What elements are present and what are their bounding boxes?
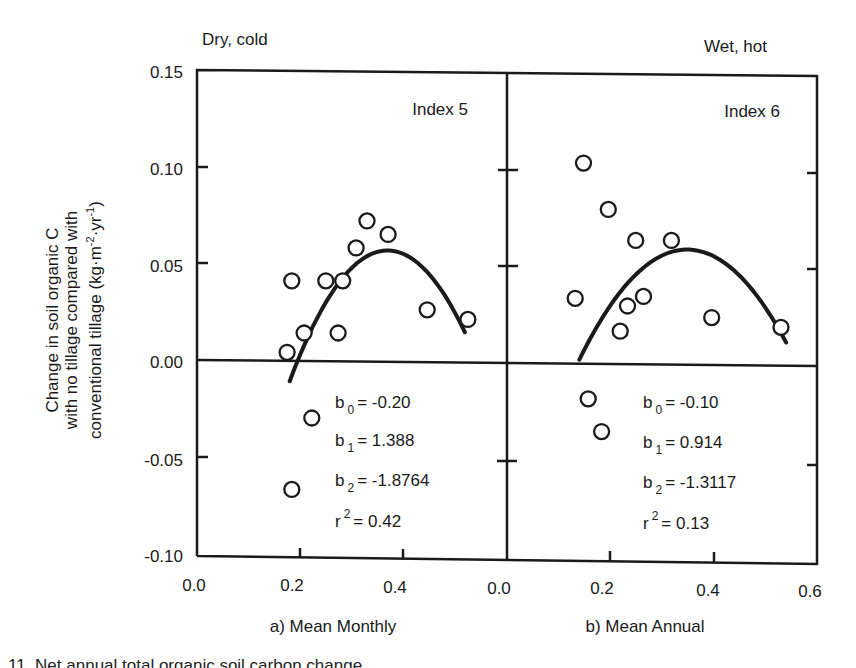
panel-a-stats: b0= -0.20 b1= 1.388 b2= -1.8764 r2= 0.42 bbox=[335, 393, 429, 531]
data-point-circle bbox=[576, 156, 591, 171]
x-tick-labels: 0.0 0.2 0.4 0.0 0.2 0.4 0.6 bbox=[182, 576, 822, 601]
x-tick-label: 0.2 bbox=[590, 579, 614, 598]
panel-a-subtitle: a) Mean Monthly bbox=[270, 617, 397, 636]
x-tick-label: 0.4 bbox=[383, 578, 407, 597]
data-point-circle bbox=[284, 482, 299, 497]
x-tick-label: 0.6 bbox=[798, 582, 822, 601]
y-axis-label-line3: conventional tillage (kg·m-2·yr-1) bbox=[81, 201, 105, 439]
data-point-circle bbox=[420, 302, 435, 317]
y-axis-label-line2: with no tillage compared with bbox=[62, 201, 81, 439]
stat-b2: b2= -1.3117 bbox=[643, 473, 736, 497]
corner-label-right: Wet, hot bbox=[704, 37, 767, 56]
panel-b-subtitle: b) Mean Annual bbox=[585, 617, 704, 636]
fit-curve bbox=[579, 250, 786, 360]
data-point-circle bbox=[297, 326, 312, 341]
data-point-circle bbox=[381, 227, 396, 242]
y-tick-label: -0.10 bbox=[144, 547, 183, 566]
x-tick-label: 0.2 bbox=[280, 576, 304, 595]
data-point-circle bbox=[280, 345, 295, 360]
data-point-circle bbox=[284, 273, 299, 288]
y-tick-label: 0.15 bbox=[150, 63, 183, 82]
panel-a-index-label: Index 5 bbox=[412, 100, 468, 119]
panel-b-stats: b0= -0.10 b1= 0.914 b2= -1.3117 r2= 0.13 bbox=[643, 393, 736, 533]
x-tick-label: 0.0 bbox=[182, 576, 206, 595]
data-point-circle bbox=[568, 291, 583, 306]
data-point-circle bbox=[331, 326, 346, 341]
data-point-circle bbox=[704, 310, 719, 325]
data-point-circle bbox=[620, 299, 635, 314]
data-point-circle bbox=[304, 411, 319, 426]
data-point-circle bbox=[664, 233, 679, 248]
y-tick-label: 0.10 bbox=[150, 160, 183, 179]
stat-r2: r2= 0.13 bbox=[643, 509, 709, 533]
stat-r2: r2= 0.42 bbox=[335, 507, 401, 531]
data-point-circle bbox=[349, 240, 364, 255]
data-point-circle bbox=[335, 273, 350, 288]
panel-b-index-label: Index 6 bbox=[724, 102, 780, 121]
data-point-circle bbox=[360, 213, 375, 228]
y-ticks-right bbox=[807, 173, 817, 465]
figure: Dry, cold Wet, hot 0.15 0.10 0.05 0.00 -… bbox=[0, 0, 856, 668]
y-tick-label: 0.00 bbox=[150, 353, 183, 372]
y-tick-label: -0.05 bbox=[144, 451, 183, 470]
data-point-circle bbox=[601, 202, 616, 217]
x-tick-label: 0.0 bbox=[487, 579, 511, 598]
data-point-circle bbox=[318, 273, 333, 288]
stat-b2: b2= -1.8764 bbox=[335, 471, 429, 495]
stat-b0: b0= -0.10 bbox=[643, 393, 719, 417]
data-point-circle bbox=[594, 424, 609, 439]
stat-b1: b1= 0.914 bbox=[643, 433, 722, 457]
data-point-circle bbox=[613, 324, 628, 339]
data-point-circle bbox=[636, 289, 651, 304]
figure-caption-fragment: 11. Net annual total organic soil carbon… bbox=[0, 656, 856, 668]
y-axis-label: Change in soil organic C with no tillage… bbox=[14, 110, 134, 530]
data-point-circle bbox=[774, 320, 789, 335]
y-ticks-left bbox=[197, 167, 208, 457]
y-tick-labels: 0.15 0.10 0.05 0.00 -0.05 -0.10 bbox=[144, 63, 183, 566]
stat-b1: b1= 1.388 bbox=[335, 431, 414, 455]
data-point-circle bbox=[460, 312, 475, 327]
data-point-circle bbox=[628, 233, 643, 248]
y-axis-label-line1: Change in soil organic C bbox=[43, 201, 62, 439]
x-tick-label: 0.4 bbox=[696, 581, 720, 600]
y-tick-label: 0.05 bbox=[150, 257, 183, 276]
data-point-circle bbox=[581, 391, 596, 406]
corner-label-left: Dry, cold bbox=[202, 30, 268, 49]
stat-b0: b0= -0.20 bbox=[335, 393, 411, 417]
